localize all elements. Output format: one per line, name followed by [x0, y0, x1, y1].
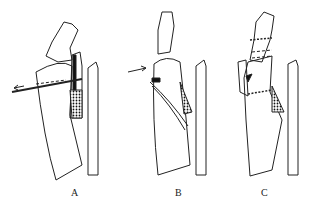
- panel-a: [12, 22, 98, 180]
- panel-b: [128, 12, 206, 175]
- bone-main-b: [154, 58, 191, 175]
- bone-side-a: [88, 62, 98, 175]
- panel-c: [238, 12, 298, 176]
- bone-side-b: [196, 60, 206, 175]
- panel-label-b: B: [175, 187, 182, 198]
- panel-label-a: A: [71, 187, 78, 198]
- bone-main-c: [244, 56, 282, 176]
- panel-label-c: C: [261, 187, 268, 198]
- bone-top-b: [158, 12, 174, 54]
- bone-top-c: [250, 12, 274, 62]
- bone-side-c: [288, 60, 298, 175]
- diagram-canvas: [0, 0, 311, 211]
